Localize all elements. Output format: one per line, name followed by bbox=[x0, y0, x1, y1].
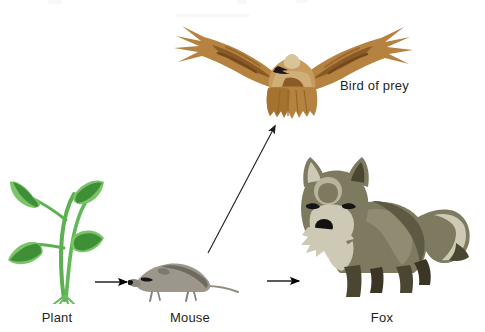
label-bird-of-prey: Bird of prey bbox=[340, 78, 409, 93]
label-plant: Plant bbox=[42, 310, 73, 325]
label-fox: Fox bbox=[371, 310, 393, 325]
label-mouse: Mouse bbox=[170, 310, 210, 325]
food-chain-diagram: Plant Mouse Fox Bird of prey bbox=[0, 0, 485, 332]
arrow-mouse-to-bird-of-prey bbox=[208, 126, 275, 253]
arrow-layer bbox=[0, 0, 485, 332]
